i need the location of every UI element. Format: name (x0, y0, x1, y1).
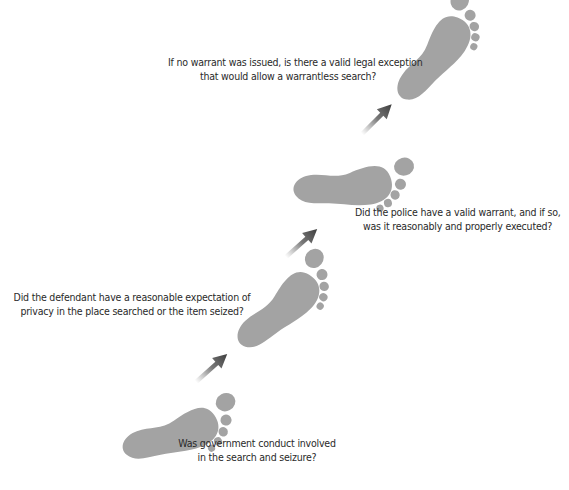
step-2-label: Did the defendant have a reasonable expe… (12, 290, 252, 318)
arrow-step-1-to-2 (191, 349, 232, 388)
footprint-steps-diagram: If no warrant was issued, is there a val… (0, 0, 569, 490)
step-1-line-2: in the search and seizure? (177, 450, 337, 464)
step-1-label: Was government conduct involved in the s… (177, 436, 337, 464)
arrow-step-3-to-4 (357, 99, 397, 139)
step-4-label: If no warrant was issued, is there a val… (168, 55, 408, 83)
step-2-line-2: privacy in the place searched or the ite… (12, 304, 252, 318)
step-4-line-1: If no warrant was issued, is there a val… (168, 55, 408, 69)
step-2-line-1: Did the defendant have a reasonable expe… (12, 290, 252, 304)
step-4-line-2: that would allow a warrantless search? (168, 69, 408, 83)
step-3-line-1: Did the police have a valid warrant, and… (355, 205, 560, 219)
step-3-label: Did the police have a valid warrant, and… (355, 205, 560, 233)
step-1-line-1: Was government conduct involved (177, 436, 337, 450)
step-3-line-2: was it reasonably and properly executed? (355, 219, 560, 233)
